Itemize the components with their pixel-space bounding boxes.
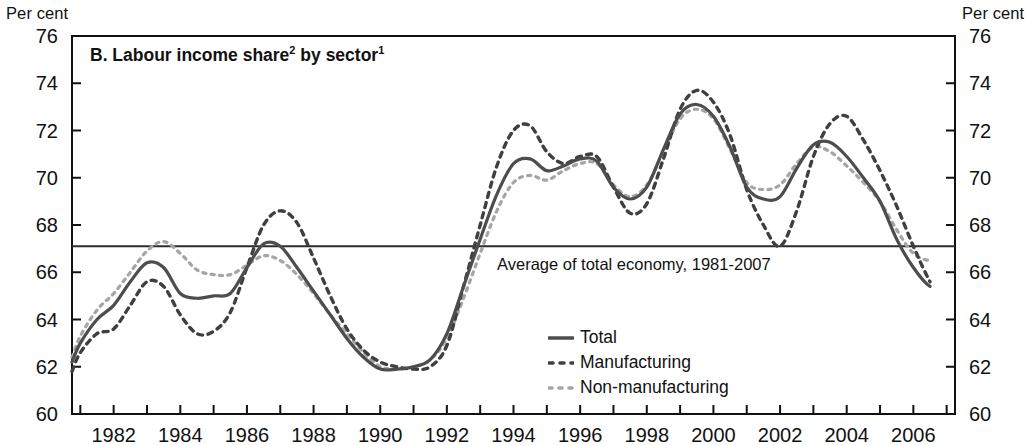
x-tick-label: 1984 — [158, 424, 203, 445]
y-tick-label-right: 66 — [969, 261, 991, 283]
series-line-manufacturing — [72, 90, 930, 371]
panel-title-text-mid: by sector — [295, 45, 378, 65]
y-tick-label-left: 76 — [36, 25, 58, 47]
y-tick-label-left: 70 — [36, 167, 58, 189]
legend-item-total[interactable]: Total — [548, 325, 729, 350]
plot-frame — [72, 36, 955, 414]
x-tick-label: 2006 — [891, 424, 936, 445]
y-tick-label-left: 74 — [36, 72, 58, 94]
y-tick-label-right: 60 — [969, 403, 991, 425]
legend-label: Non-manufacturing — [580, 377, 729, 398]
x-tick-label: 2004 — [824, 424, 869, 445]
y-tick-label-right: 76 — [969, 25, 991, 47]
chart-legend: TotalManufacturingNon-manufacturing — [548, 325, 729, 400]
series-line-total — [72, 104, 930, 370]
y-tick-label-left: 66 — [36, 261, 58, 283]
x-tick-label: 1988 — [291, 424, 336, 445]
panel-title-text: B. Labour income share — [90, 45, 289, 65]
legend-item-non-manufacturing[interactable]: Non-manufacturing — [548, 375, 729, 400]
x-tick-label: 1990 — [358, 424, 403, 445]
average-line-annotation: Average of total economy, 1981-2007 — [497, 255, 771, 274]
y-tick-label-right: 62 — [969, 356, 991, 378]
x-tick-label: 1982 — [91, 424, 136, 445]
legend-key-icon — [548, 381, 574, 395]
y-tick-label-left: 62 — [36, 356, 58, 378]
x-tick-label: 1996 — [558, 424, 603, 445]
legend-key-icon — [548, 331, 574, 345]
x-tick-label: 2002 — [758, 424, 803, 445]
x-tick-label: 2000 — [691, 424, 736, 445]
y-tick-label-left: 72 — [36, 120, 58, 142]
legend-key-icon — [548, 356, 574, 370]
legend-item-manufacturing[interactable]: Manufacturing — [548, 350, 729, 375]
legend-label: Total — [580, 327, 617, 348]
legend-label: Manufacturing — [580, 352, 691, 373]
x-tick-label: 1994 — [491, 424, 536, 445]
x-tick-label: 1992 — [425, 424, 470, 445]
y-tick-label-right: 64 — [969, 309, 991, 331]
y-tick-label-right: 70 — [969, 167, 991, 189]
panel-title: B. Labour income share2 by sector1 — [90, 44, 384, 66]
x-tick-label: 1998 — [625, 424, 670, 445]
y-tick-label-left: 60 — [36, 403, 58, 425]
series-line-non-manufacturing — [72, 109, 930, 369]
y-tick-label-right: 68 — [969, 214, 991, 236]
y-tick-label-left: 64 — [36, 309, 58, 331]
y-tick-label-right: 74 — [969, 72, 991, 94]
y-tick-label-right: 72 — [969, 120, 991, 142]
panel-title-superscript-1: 1 — [378, 44, 384, 56]
x-tick-label: 1986 — [225, 424, 270, 445]
y-tick-label-left: 68 — [36, 214, 58, 236]
chart-plot-area: 6060626264646666686870707272747476761982… — [0, 0, 1026, 445]
chart-figure: Per cent Per cent 6060626264646666686870… — [0, 0, 1026, 445]
